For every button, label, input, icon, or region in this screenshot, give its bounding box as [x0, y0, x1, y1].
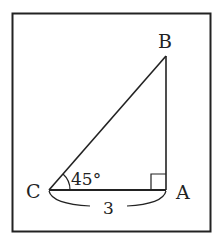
right-angle-marker: [151, 174, 166, 190]
vertex-label-a: A: [175, 181, 190, 203]
side-cb: [49, 56, 166, 190]
side-length-label: 3: [103, 198, 114, 218]
vertex-label-c: C: [26, 180, 41, 202]
brace-left: [49, 191, 90, 206]
brace-right: [127, 191, 166, 206]
triangle-diagram: B C A 45° 3: [0, 0, 217, 238]
angle-label: 45°: [71, 169, 101, 189]
vertex-label-b: B: [158, 30, 172, 52]
angle-arc: [63, 174, 70, 190]
